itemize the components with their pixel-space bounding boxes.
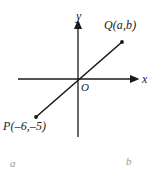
- point-q-label: Q(a,b): [104, 19, 136, 31]
- origin-label: O: [81, 82, 89, 93]
- caption-right: b: [126, 156, 132, 167]
- point-p-label: P(–6,–5): [3, 120, 46, 132]
- y-axis-label: y: [76, 10, 81, 22]
- coordinate-plane-figure: y x O Q(a,b) P(–6,–5) a b: [0, 0, 160, 173]
- x-axis-label: x: [142, 73, 147, 85]
- point-q-marker: [120, 40, 124, 44]
- caption-left: a: [10, 158, 16, 169]
